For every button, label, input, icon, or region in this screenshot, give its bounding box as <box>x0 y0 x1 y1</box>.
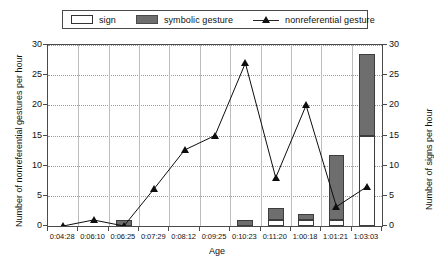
x-axis-tick-label: 0:11:20 <box>263 232 287 241</box>
legend-label-sign: sign <box>99 15 116 25</box>
bar-stack[interactable] <box>268 208 284 226</box>
legend-label-nonreferential-gesture: nonreferential gesture <box>285 15 375 25</box>
y-axis-right-tick-mark <box>383 74 387 75</box>
y-axis-left-tick-mark <box>43 225 47 226</box>
y-axis-right-tick-label: 5 <box>389 190 411 200</box>
triangle-marker[interactable] <box>150 185 158 192</box>
bar-segment-sign[interactable] <box>329 220 345 226</box>
y-axis-right-tick-label: 30 <box>389 39 411 49</box>
y-axis-right-tick-label: 0 <box>389 220 411 230</box>
x-axis-tick-label: 1:00:18 <box>293 232 318 241</box>
y-axis-right-tick-label: 10 <box>389 160 411 170</box>
y-axis-right-tick-label: 25 <box>389 69 411 79</box>
chart-legend: sign symbolic gesture nonreferential ges… <box>62 10 368 29</box>
x-axis-tick-mark <box>77 227 78 231</box>
y-axis-right-tick-mark <box>383 104 387 105</box>
category-separator <box>139 45 140 226</box>
gray-box-swatch-icon <box>136 15 158 24</box>
gridline <box>48 105 382 106</box>
x-axis-tick-label: 1:01:21 <box>323 232 348 241</box>
x-axis-tick-mark <box>290 227 291 231</box>
category-separator <box>261 45 262 226</box>
x-axis-tick-mark <box>168 227 169 231</box>
legend-label-symbolic-gesture: symbolic gesture <box>164 15 233 25</box>
x-axis-tick-label: 0:10:23 <box>232 232 257 241</box>
x-axis-tick-label: 0:09:25 <box>202 232 227 241</box>
bar-segment-sign[interactable] <box>359 136 375 227</box>
bar-segment-sign[interactable] <box>268 220 284 226</box>
x-axis-tick-mark <box>108 227 109 231</box>
bar-stack[interactable] <box>237 220 253 226</box>
x-axis-tick-label: 0:04:28 <box>50 232 75 241</box>
triangle-marker[interactable] <box>272 174 280 181</box>
y-axis-left-tick-mark <box>43 44 47 45</box>
plot-area <box>47 44 383 227</box>
triangle-marker[interactable] <box>90 216 98 223</box>
y-axis-right-title: Number of signs per hour <box>424 108 434 210</box>
y-axis-left-tick-mark <box>43 135 47 136</box>
category-separator <box>291 45 292 226</box>
bar-segment-symbolic-gesture[interactable] <box>329 155 345 220</box>
gridline <box>48 75 382 76</box>
category-separator <box>169 45 170 226</box>
bar-segment-symbolic-gesture[interactable] <box>359 54 375 135</box>
x-axis-tick-label: 0:06:25 <box>111 232 136 241</box>
x-axis-tick-label: 0:06:10 <box>80 232 105 241</box>
y-axis-right-tick-mark <box>383 195 387 196</box>
gridline <box>48 45 382 46</box>
category-separator <box>200 45 201 226</box>
bar-stack[interactable] <box>359 54 375 226</box>
triangle-marker[interactable] <box>181 146 189 153</box>
x-axis-tick-mark <box>229 227 230 231</box>
legend-item-sign: sign <box>71 11 116 28</box>
y-axis-right-tick-mark <box>383 165 387 166</box>
legend-item-nonreferential-gesture: nonreferential gesture <box>253 11 375 28</box>
y-axis-left-tick-label: 30 <box>20 39 42 49</box>
x-axis-tick-mark <box>320 227 321 231</box>
white-box-swatch-icon <box>71 15 93 24</box>
y-axis-right-tick-mark <box>383 135 387 136</box>
x-axis-title: Age <box>0 246 434 256</box>
y-axis-right-tick-label: 20 <box>389 99 411 109</box>
triangle-marker[interactable] <box>332 203 340 210</box>
y-axis-right-tick-mark <box>383 225 387 226</box>
triangle-marker[interactable] <box>59 222 67 227</box>
bar-segment-symbolic-gesture[interactable] <box>268 208 284 220</box>
triangle-marker[interactable] <box>120 222 128 227</box>
x-axis-tick-label: 0:07:29 <box>141 232 166 241</box>
y-axis-left-tick-mark <box>43 195 47 196</box>
x-axis-tick-mark <box>351 227 352 231</box>
category-separator <box>78 45 79 226</box>
y-axis-right-tick-mark <box>383 44 387 45</box>
y-axis-right-tick-label: 15 <box>389 130 411 140</box>
triangle-marker[interactable] <box>302 101 310 108</box>
triangle-marker[interactable] <box>363 183 371 190</box>
x-axis-tick-mark <box>381 227 382 231</box>
triangle-marker[interactable] <box>211 132 219 139</box>
x-axis-tick-mark <box>260 227 261 231</box>
category-separator <box>321 45 322 226</box>
line-triangle-marker-icon <box>253 15 279 25</box>
category-separator <box>352 45 353 226</box>
y-axis-left-tick-mark <box>43 74 47 75</box>
y-axis-left-title: Number of nonreferential gestures per ho… <box>14 54 24 227</box>
chart-figure: sign symbolic gesture nonreferential ges… <box>0 0 434 270</box>
legend-item-symbolic-gesture: symbolic gesture <box>136 11 233 28</box>
x-axis-tick-mark <box>138 227 139 231</box>
x-axis-tick-mark <box>199 227 200 231</box>
bar-stack[interactable] <box>329 155 345 226</box>
bar-stack[interactable] <box>298 214 314 226</box>
bar-segment-sign[interactable] <box>298 220 314 226</box>
y-axis-left-tick-mark <box>43 104 47 105</box>
x-axis-tick-label: 1:03:03 <box>353 232 378 241</box>
triangle-marker[interactable] <box>241 59 249 66</box>
category-separator <box>230 45 231 226</box>
category-separator <box>109 45 110 226</box>
x-axis-tick-label: 0:08:12 <box>171 232 196 241</box>
y-axis-left-tick-mark <box>43 165 47 166</box>
x-axis-tick-mark <box>47 227 48 231</box>
bar-segment-symbolic-gesture[interactable] <box>237 220 253 226</box>
